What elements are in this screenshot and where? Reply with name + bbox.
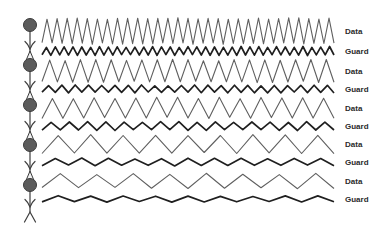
chain-balloon-node [24,99,37,112]
node-chain [24,19,37,223]
chain-balloon-node [24,139,37,152]
data-waveform [42,18,334,45]
chain-balloon-node [24,59,37,72]
row-label: Guard [345,122,369,131]
row-label: Data [345,140,363,149]
row-label: Data [345,67,363,76]
row-label: Guard [345,85,369,94]
data-waveform [42,173,334,188]
figure-canvas: DataGuardDataGuardDataGuardDataGuardData… [0,0,383,225]
waveform-rows: DataGuardDataGuardDataGuardDataGuardData… [42,18,369,205]
row-label: Guard [345,47,369,56]
data-waveform [42,135,334,154]
guard-waveform [42,158,334,166]
row-label: Data [345,177,363,186]
guard-waveform [42,196,334,202]
chain-head-node [24,19,37,32]
data-waveform [42,97,334,118]
qubit-chain-waveform-diagram: DataGuardDataGuardDataGuardDataGuardData… [0,0,383,225]
guard-waveform [42,47,334,56]
data-waveform [42,59,334,82]
chain-tail-icon [25,212,36,222]
row-label: Guard [345,195,369,204]
chain-balloon-node [24,179,37,192]
guard-waveform [42,122,334,131]
guard-waveform [42,85,334,93]
row-label: Data [345,27,363,36]
row-label: Guard [345,158,369,167]
row-label: Data [345,104,363,113]
